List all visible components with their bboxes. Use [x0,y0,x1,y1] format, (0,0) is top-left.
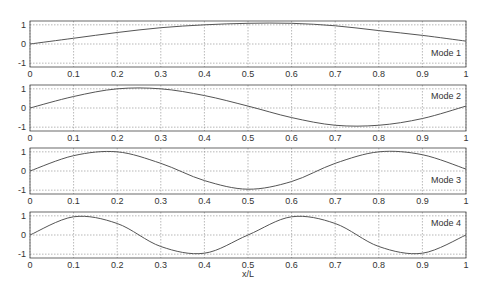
y-tick-label: 1 [21,20,26,30]
x-tick-label: 1 [463,260,468,270]
x-tick-label: 0.7 [329,69,342,79]
x-tick-label: 0.1 [67,133,80,143]
x-tick-label: 0.7 [329,260,342,270]
x-tick-label: 0.3 [155,196,168,206]
panel-mode-1: 00.10.20.30.40.50.60.70.80.9110-1Mode 1 [18,20,469,79]
x-tick-label: 0.8 [373,133,386,143]
y-tick-label: -1 [18,122,26,132]
x-tick-label: 0 [27,260,32,270]
x-tick-label: 0.2 [111,260,124,270]
x-tick-label: 0.2 [111,196,124,206]
x-tick-label: 0.3 [155,133,168,143]
x-tick-label: 0.2 [111,133,124,143]
y-tick-label: 0 [21,103,26,113]
x-tick-label: 0.6 [285,260,298,270]
x-tick-label: 0 [27,133,32,143]
y-tick-label: 0 [21,39,26,49]
x-tick-label: 0.6 [285,196,298,206]
y-tick-label: -1 [18,58,26,68]
x-tick-label: 0.5 [242,69,255,79]
x-tick-label: 0.7 [329,196,342,206]
x-tick-label: 0.9 [416,196,429,206]
x-tick-label: 1 [463,133,468,143]
panel-mode-3: 00.10.20.30.40.50.60.70.80.9110-1Mode 3 [18,147,469,206]
x-tick-label: 0.1 [67,196,80,206]
y-tick-label: -1 [18,249,26,259]
panel-mode-4: 00.10.20.30.40.50.60.70.80.9110-1Mode 4 [18,211,469,270]
x-tick-label: 0.1 [67,260,80,270]
x-tick-label: 0.9 [416,260,429,270]
x-tick-label: 0.6 [285,69,298,79]
x-tick-label: 0.4 [198,69,211,79]
x-tick-label: 0.3 [155,260,168,270]
y-tick-label: 1 [21,211,26,221]
x-tick-label: 1 [463,196,468,206]
y-tick-label: 1 [21,84,26,94]
x-tick-label: 0.9 [416,133,429,143]
mode-shapes-chart: 00.10.20.30.40.50.60.70.80.9110-1Mode 10… [0,0,486,289]
x-tick-label: 0.5 [242,133,255,143]
x-tick-label: 0.8 [373,69,386,79]
x-tick-label: 1 [463,69,468,79]
y-tick-label: 1 [21,147,26,157]
legend-label: Mode 2 [431,91,461,101]
x-tick-label: 0.3 [155,69,168,79]
panel-mode-2: 00.10.20.30.40.50.60.70.80.9110-1Mode 2 [18,84,469,143]
x-tick-label: 0.8 [373,260,386,270]
x-tick-label: 0.2 [111,69,124,79]
x-axis-label: x/L [242,269,254,279]
y-tick-label: 0 [21,166,26,176]
x-tick-label: 0.6 [285,133,298,143]
x-tick-label: 0.4 [198,260,211,270]
x-tick-label: 0.5 [242,196,255,206]
x-tick-label: 0.4 [198,196,211,206]
x-tick-label: 0.8 [373,196,386,206]
y-tick-label: 0 [21,230,26,240]
x-tick-label: 0.9 [416,69,429,79]
legend-label: Mode 4 [431,218,461,228]
x-tick-label: 0 [27,196,32,206]
x-tick-label: 0 [27,69,32,79]
x-tick-label: 0.4 [198,133,211,143]
x-tick-label: 0.1 [67,69,80,79]
legend-label: Mode 3 [431,175,461,185]
y-tick-label: -1 [18,185,26,195]
x-tick-label: 0.7 [329,133,342,143]
legend-label: Mode 1 [431,48,461,58]
